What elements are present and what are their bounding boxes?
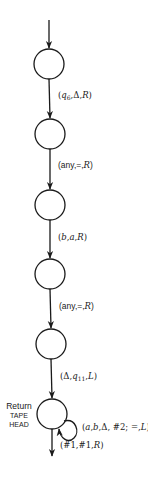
state-1 — [34, 49, 64, 79]
state-6-label-line2: TAPE — [10, 412, 28, 419]
state-5 — [36, 329, 66, 359]
transition-label-3: (b,a,R) — [58, 232, 87, 242]
transition-label-2: (any,=,R) — [58, 160, 93, 170]
state-2 — [35, 119, 65, 149]
state-6-return-tape-head — [37, 399, 67, 429]
transition-arrow-1 — [49, 79, 50, 118]
state-4 — [35, 259, 65, 289]
self-loop-arrow — [59, 421, 77, 441]
turing-machine-diagram: (q6,Δ,R) (any,=,R) (b,a,R) (any,=,R) (Δ,… — [0, 0, 148, 479]
state-3 — [35, 190, 65, 220]
transition-label-4: (any,=,R) — [59, 301, 94, 311]
exit-transition-label: (#1,#1,R) — [60, 440, 104, 450]
transition-label-5: (Δ,q11,L) — [60, 371, 97, 382]
transition-arrow-5 — [51, 359, 52, 398]
self-loop-label: (a,b,Δ, #2; =,L) — [82, 422, 148, 432]
state-6-label-line3: HEAD — [9, 421, 28, 428]
transition-arrow-4 — [50, 289, 51, 328]
state-6-label-line1: Return — [6, 401, 32, 411]
transition-label-1: (q6,Δ,R) — [58, 90, 92, 101]
